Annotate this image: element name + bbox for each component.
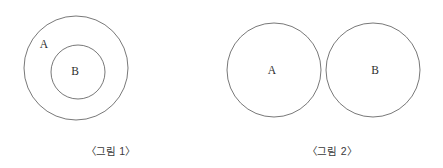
set-label-a: A bbox=[40, 38, 49, 50]
figure-1: A B 〈그림 1〉 bbox=[0, 0, 221, 168]
figure-2-caption: 〈그림 2〉 bbox=[221, 143, 443, 158]
figure-1-caption: 〈그림 1〉 bbox=[0, 143, 221, 158]
set-label-b: B bbox=[371, 64, 379, 76]
set-label-a: A bbox=[268, 64, 277, 76]
venn-diagram-figure-panel: A B 〈그림 1〉 bbox=[0, 0, 443, 168]
figure-1-svg: A B bbox=[0, 0, 221, 140]
figure-2-svg: A B bbox=[221, 0, 443, 140]
set-label-b: B bbox=[71, 65, 79, 77]
figure-2: A B 〈그림 2〉 bbox=[221, 0, 443, 168]
